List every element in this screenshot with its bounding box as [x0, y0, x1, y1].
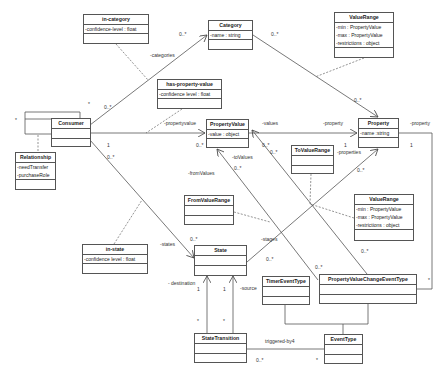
attribute: -needTransfer: [17, 163, 54, 171]
multiplicity: 1: [410, 142, 413, 148]
class-has-property-value[interactable]: has-property-value -confidence level : f…: [157, 79, 222, 109]
class-value-range-mid[interactable]: ValueRange -min : PropertyValue -max : P…: [354, 194, 414, 241]
multiplicity: 0..*: [271, 31, 279, 37]
role-label-triggered-by: triggered-by4: [265, 338, 294, 344]
class-name: EventType: [325, 335, 362, 345]
attribute: -confidence-level : float: [85, 25, 147, 33]
multiplicity: *: [428, 277, 430, 283]
role-label-source: -source: [240, 285, 257, 291]
multiplicity: 0..*: [107, 154, 115, 160]
role-label-destination: - destination: [168, 280, 195, 286]
class-state-transition[interactable]: StateTransition: [194, 333, 247, 363]
class-name: Property: [359, 119, 398, 129]
role-label-property-left: -property: [323, 120, 343, 126]
class-property-value[interactable]: PropertyValue -value : object: [206, 119, 249, 148]
multiplicity: 0..*: [234, 165, 242, 171]
class-to-value-range[interactable]: ToValueRange: [291, 145, 334, 174]
class-property[interactable]: Property -name :string: [358, 118, 399, 148]
multiplicity: *: [197, 318, 199, 324]
class-name: PropertyValue: [207, 120, 248, 130]
multiplicity: *: [316, 357, 318, 363]
role-label-states: -states: [160, 241, 175, 247]
class-consumer[interactable]: Consumer: [51, 118, 91, 147]
class-name: StateTransition: [195, 334, 246, 344]
multiplicity: 0..*: [262, 142, 270, 148]
class-in-state[interactable]: in-state -confidence level : float: [82, 244, 148, 274]
attribute: -confidence level : float: [84, 255, 146, 263]
class-from-value-range[interactable]: FromValueRange: [184, 195, 234, 225]
class-timer-event-type[interactable]: TimerEventType: [262, 276, 310, 305]
multiplicity: 0..*: [270, 149, 278, 155]
multiplicity: 1: [223, 286, 226, 292]
attribute: -purchaseRole: [17, 171, 54, 179]
attribute: -name :string: [360, 129, 397, 137]
attribute: -max : PropertyValue: [356, 213, 412, 221]
multiplicity: 0..*: [196, 142, 204, 148]
multiplicity: 0..*: [190, 236, 198, 242]
class-name: Consumer: [52, 119, 90, 129]
multiplicity: 0..*: [357, 167, 365, 173]
role-label-stages: -stages: [261, 236, 277, 242]
attribute: -max : PropertyValue: [336, 31, 392, 39]
role-label-propertyvalue: -propertyvalue: [164, 120, 196, 126]
multiplicity: 0..*: [179, 31, 187, 37]
class-name: Category: [209, 21, 252, 31]
class-name: has-property-value: [158, 80, 221, 90]
class-value-range-top[interactable]: ValueRange -min : PropertyValue -max : P…: [334, 12, 394, 58]
class-event-type[interactable]: EventType: [324, 334, 363, 364]
role-label-properties: -properties: [337, 149, 361, 155]
multiplicity: 1: [107, 142, 110, 148]
class-name: in-state: [83, 245, 147, 255]
class-name: ValueRange: [335, 13, 393, 23]
class-state[interactable]: State: [194, 245, 247, 276]
attribute: -value : object: [208, 130, 247, 138]
attribute: -restrictions : object: [356, 221, 412, 229]
multiplicity: *: [223, 318, 225, 324]
attribute: -confidence level : float: [159, 90, 220, 98]
class-relationship[interactable]: Relationship -needTransfer -purchaseRole: [15, 152, 56, 190]
uml-class-diagram: in-category -confidence-level : float Ca…: [0, 0, 448, 378]
class-property-value-change-event-type[interactable]: PropertyValueChangeEventType: [319, 274, 417, 304]
multiplicity: 0..*: [354, 97, 362, 103]
class-name: ValueRange: [355, 195, 413, 205]
multiplicity: 0..*: [104, 104, 112, 110]
multiplicity: *: [15, 117, 17, 123]
attribute: -name : string: [210, 31, 251, 39]
role-label-values: -values: [262, 120, 278, 126]
attribute: -restrictions : object: [336, 39, 392, 47]
class-name: TimerEventType: [263, 277, 309, 287]
multiplicity: 0..*: [315, 264, 323, 270]
role-label-categories: -categories: [150, 52, 175, 58]
class-name: in-category: [84, 15, 148, 25]
class-in-category[interactable]: in-category -confidence-level : float: [83, 14, 149, 44]
attribute: -min : PropertyValue: [336, 23, 392, 31]
role-label-from-values: -fromValues: [188, 170, 215, 176]
class-name: FromValueRange: [185, 196, 233, 206]
multiplicity: 1: [344, 142, 347, 148]
role-label-property-right: -property: [410, 120, 430, 126]
role-label-to-values: -toValues: [232, 154, 253, 160]
class-name: State: [195, 246, 246, 256]
multiplicity: 0..*: [266, 256, 274, 262]
multiplicity: 0..*: [361, 248, 369, 254]
attribute: -min : PropertyValue: [356, 205, 412, 213]
class-name: Relationship: [16, 153, 55, 163]
multiplicity: *: [88, 101, 90, 107]
multiplicity: 0..*: [256, 357, 264, 363]
class-name: ToValueRange: [292, 146, 333, 156]
class-category[interactable]: Category -name : string: [208, 20, 253, 50]
multiplicity: 1: [197, 286, 200, 292]
class-name: PropertyValueChangeEventType: [320, 275, 416, 285]
